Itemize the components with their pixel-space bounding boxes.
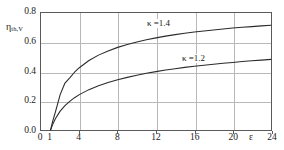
x-tick-label: 0 xyxy=(38,133,43,143)
x-axis-title: ε xyxy=(249,133,253,143)
x-tick-mark xyxy=(117,131,118,134)
x-tick-label: 12 xyxy=(151,133,161,143)
x-tick-label: 24 xyxy=(267,133,277,143)
x-tick-mark xyxy=(233,131,234,134)
thermal-efficiency-chart: 0.00.20.40.60.8 014812162024 ηth,V ε κ =… xyxy=(0,0,284,150)
y-axis-title: ηth,V xyxy=(6,22,23,34)
curve-label-kappa-1-4: κ =1.4 xyxy=(146,19,171,28)
x-tick-label: 16 xyxy=(190,133,200,143)
x-tick-label: 4 xyxy=(76,133,81,143)
x-tick-mark xyxy=(79,131,80,134)
x-tick-label: 20 xyxy=(229,133,239,143)
curve-label-kappa-1-2: κ =1.2 xyxy=(181,54,206,63)
y-axis-subscript: th,V xyxy=(11,25,23,32)
x-tick-mark xyxy=(272,131,273,134)
x-tick-label: 8 xyxy=(115,133,120,143)
x-tick-label: 1 xyxy=(47,133,52,143)
x-tick-mark xyxy=(156,131,157,134)
x-tick-mark xyxy=(195,131,196,134)
x-axis-tick-labels: 014812162024 xyxy=(0,0,284,150)
